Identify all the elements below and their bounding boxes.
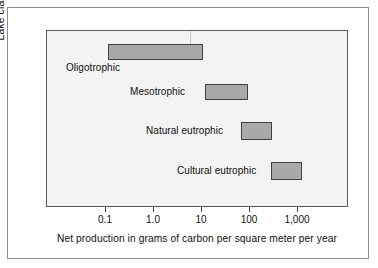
x-tick-label-2: 10 [181,214,221,225]
bar-label-natural-eutrophic: Natural eutrophic [146,125,223,136]
x-tick-label-4: 1,000 [277,214,317,225]
x-tick-mark-1 [153,207,154,212]
bar-oligotrophic [108,44,203,60]
x-tick-mark-0 [105,207,106,212]
bar-natural-eutrophic [241,122,272,140]
y-axis-title: Lake classification [0,0,10,62]
x-tick-label-1: 1.0 [133,214,173,225]
x-tick-label-3: 100 [229,214,269,225]
bar-label-oligotrophic: Oligotrophic [66,62,120,73]
bar-mesotrophic [205,84,248,100]
x-tick-mark-3 [249,207,250,212]
chart-figure: OligotrophicMesotrophicNatural eutrophic… [0,0,378,268]
bar-cultural-eutrophic [271,162,302,180]
x-tick-mark-2 [201,207,202,212]
x-tick-label-0: 0.1 [85,214,125,225]
x-tick-mark-4 [297,207,298,212]
bar-label-cultural-eutrophic: Cultural eutrophic [177,165,256,176]
vertical-artifact-line [190,31,191,45]
bar-label-mesotrophic: Mesotrophic [130,86,185,97]
x-axis-title: Net production in grams of carbon per sq… [46,233,348,244]
